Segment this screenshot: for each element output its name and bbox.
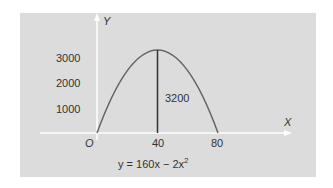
x-axis-arrow-icon [284,130,292,136]
origin-label: O [85,138,94,149]
y-axis-label: Y [103,16,110,27]
y-tick-1000: 1000 [56,104,80,115]
x-axis-label: X [284,117,291,128]
max-value-label: 3200 [165,93,189,104]
y-axis-arrow-icon [94,13,100,21]
equation-text: y = 160x − 2x [118,158,184,170]
equation-label: y = 160x − 2x2 [118,157,189,170]
equation-exponent: 2 [184,156,188,165]
y-tick-2000: 2000 [56,78,80,89]
x-tick-40: 40 [152,138,164,149]
y-tick-3000: 3000 [56,53,80,64]
x-tick-80: 80 [211,138,223,149]
